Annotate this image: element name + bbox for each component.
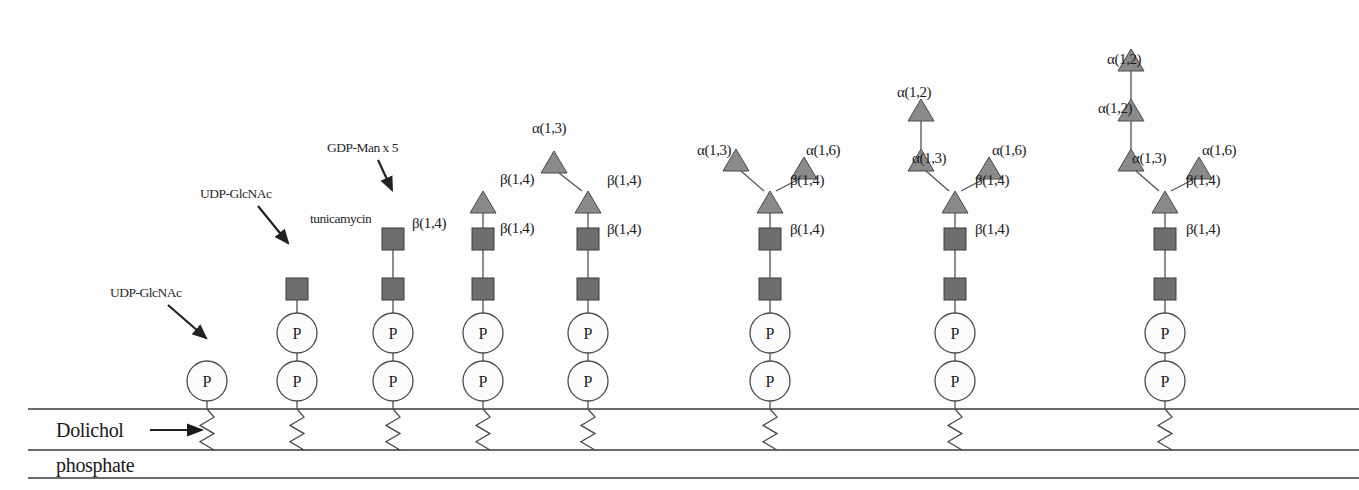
structures-layer: PPPPPβ(1,4)PPβ(1,4)β(1,4)PPα(1,3)β(1,4)β… [187, 49, 1237, 450]
dolichol-tail [948, 409, 962, 450]
linkage-label: α(1,3) [532, 120, 567, 137]
structure-6: PPα(1,3)α(1,6)β(1,4)β(1,4) [697, 142, 841, 450]
mannose-triangle [470, 191, 496, 213]
mannose-triangle [575, 191, 601, 213]
phosphate-letter: P [479, 325, 488, 342]
phosphate-letter: P [479, 373, 488, 390]
alpha13-bond [741, 171, 764, 191]
mannose-triangle [757, 191, 783, 213]
phosphate-letter: P [584, 373, 593, 390]
ann-gdp-man-text: GDP-Man x 5 [327, 140, 399, 155]
dolichol-tail [581, 409, 595, 450]
linkage-label: β(1,4) [790, 221, 824, 238]
ann-udp-glcnac-1-arrow [168, 305, 206, 338]
linkage-label: α(1,2) [897, 84, 932, 101]
alpha13-bond [1136, 171, 1159, 191]
linkage-label: α(1,3) [912, 150, 947, 167]
dolichol-tail [476, 409, 490, 450]
linkage-label: α(1,6) [992, 142, 1027, 159]
ann-gdp-man-arrow [378, 160, 392, 190]
dolichol-tail [763, 409, 777, 450]
glcnac-square [382, 278, 404, 300]
structure-8: PPα(1,2)α(1,2)α(1,3)α(1,6)β(1,4)β(1,4) [1098, 49, 1237, 450]
linkage-label: β(1,4) [500, 220, 534, 237]
membrane-band [28, 409, 1359, 478]
dolichol-tail [386, 409, 400, 450]
phosphate-letter: P [951, 373, 960, 390]
glcnac-square [944, 228, 966, 250]
annotations-layer: UDP-GlcNAcUDP-GlcNAcGDP-Man x 5tunicamyc… [110, 140, 399, 338]
structure-1: P [187, 361, 227, 450]
glcnac-square [577, 278, 599, 300]
phosphate-letter: P [389, 325, 398, 342]
diagram-canvas: Dolichol phosphate PPPPPβ(1,4)PPβ(1,4)β(… [0, 0, 1359, 490]
structure-4: PPβ(1,4)β(1,4) [463, 171, 534, 450]
linkage-label: β(1,4) [412, 215, 446, 232]
structure-2: PP [277, 278, 317, 450]
phosphate-letter: P [951, 325, 960, 342]
phosphate-letter: P [293, 373, 302, 390]
linkage-label: β(1,4) [607, 172, 641, 189]
ann-udp-glcnac-2-arrow [258, 206, 288, 243]
mannose-triangle [1152, 191, 1178, 213]
glcnac-square [1154, 228, 1176, 250]
linkage-label: α(1,2) [1107, 51, 1142, 68]
glcnac-square [577, 228, 599, 250]
glcnac-square [472, 228, 494, 250]
phosphate-letter: P [766, 373, 775, 390]
glcnac-square [286, 278, 308, 300]
linkage-label: β(1,4) [607, 221, 641, 238]
alpha13-bond [559, 173, 582, 191]
dolichol-tail [200, 409, 214, 450]
phosphate-letter: P [1161, 325, 1170, 342]
phosphate-label: phosphate [56, 454, 135, 477]
linkage-label: β(1,4) [1186, 172, 1220, 189]
phosphate-letter: P [584, 325, 593, 342]
linkage-label: α(1,6) [806, 142, 841, 159]
phosphate-letter: P [766, 325, 775, 342]
mannose-triangle [942, 191, 968, 213]
linkage-label: β(1,4) [500, 171, 534, 188]
structure-3: PPβ(1,4) [373, 215, 446, 450]
ann-gdp-man: GDP-Man x 5 [327, 140, 399, 190]
structure-7: PPα(1,2)α(1,3)α(1,6)β(1,4)β(1,4) [897, 84, 1027, 450]
glcnac-square [759, 228, 781, 250]
glcnac-square [382, 228, 404, 250]
ann-udp-glcnac-2: UDP-GlcNAc [200, 186, 288, 243]
dolichol-tail [290, 409, 304, 450]
ann-udp-glcnac-2-text: UDP-GlcNAc [200, 186, 272, 201]
linkage-label: α(1,3) [697, 142, 732, 159]
linkage-label: α(1,2) [1098, 100, 1133, 117]
dolichol-tail [1158, 409, 1172, 450]
phosphate-letter: P [1161, 373, 1170, 390]
structure-5: PPα(1,3)β(1,4)β(1,4) [532, 120, 641, 450]
linkage-label: β(1,4) [1186, 221, 1220, 238]
ann-udp-glcnac-1: UDP-GlcNAc [110, 285, 206, 338]
linkage-label: β(1,4) [975, 172, 1009, 189]
ann-tunicamycin: tunicamycin [310, 211, 372, 226]
ann-tunicamycin-text: tunicamycin [310, 211, 372, 226]
linkage-label: α(1,3) [1132, 150, 1167, 167]
ann-udp-glcnac-1-text: UDP-GlcNAc [110, 285, 182, 300]
mannose-triangle [541, 151, 567, 173]
linkage-label: α(1,6) [1202, 142, 1237, 159]
mannose-triangle [908, 99, 934, 121]
phosphate-letter: P [293, 325, 302, 342]
linkage-label: β(1,4) [790, 172, 824, 189]
alpha13-bond [926, 171, 949, 191]
phosphate-letter: P [203, 373, 212, 390]
glcnac-square [944, 278, 966, 300]
linkage-label: β(1,4) [975, 221, 1009, 238]
phosphate-letter: P [389, 373, 398, 390]
glycosylation-diagram: Dolichol phosphate PPPPPβ(1,4)PPβ(1,4)β(… [0, 0, 1359, 490]
glcnac-square [1154, 278, 1176, 300]
dolichol-label: Dolichol [56, 419, 124, 441]
glcnac-square [759, 278, 781, 300]
glcnac-square [472, 278, 494, 300]
